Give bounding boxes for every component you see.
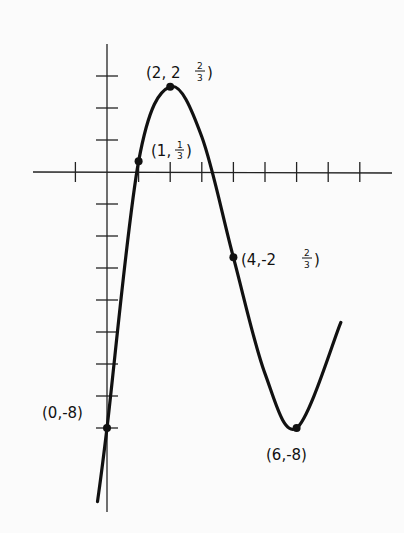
label-4-neg-two-and-two-thirds: (4,-2 2 3 ): [241, 248, 320, 270]
svg-text:3: 3: [197, 73, 203, 83]
key-point-marker: [135, 157, 143, 165]
key-point-marker: [293, 424, 301, 432]
label-1-one-third: (1, 1 3 ): [151, 140, 192, 161]
svg-text:(1,: (1,: [151, 142, 171, 160]
key-point-marker: [103, 424, 111, 432]
svg-text:2: 2: [304, 248, 310, 258]
function-graph: (0,-8) (1, 1 3 ) (2, 2 2 3 ) (4,-2 2 3 )…: [0, 0, 404, 533]
svg-text:): ): [207, 64, 213, 82]
label-0-neg8: (0,-8): [42, 404, 83, 422]
svg-text:3: 3: [177, 151, 183, 161]
svg-text:2: 2: [197, 61, 203, 71]
cubic-curve: [98, 86, 341, 501]
svg-text:1: 1: [177, 140, 183, 150]
key-point-marker: [229, 253, 237, 261]
point-labels: (0,-8) (1, 1 3 ) (2, 2 2 3 ) (4,-2 2 3 )…: [42, 61, 320, 464]
svg-text:3: 3: [304, 260, 310, 270]
svg-text:): ): [314, 251, 320, 269]
axes: [33, 44, 392, 512]
label-6-neg8: (6,-8): [266, 446, 307, 464]
svg-text:(4,-2: (4,-2: [241, 251, 276, 269]
svg-text:): ): [186, 142, 192, 160]
label-2-two-and-two-thirds: (2, 2 2 3 ): [146, 61, 213, 83]
svg-text:(2, 2: (2, 2: [146, 64, 180, 82]
key-point-marker: [166, 83, 174, 91]
